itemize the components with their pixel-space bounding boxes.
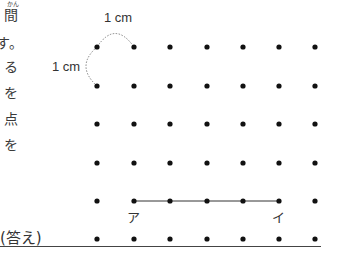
grid-dot	[94, 236, 99, 241]
grid-dot	[312, 236, 317, 241]
grid-dot	[94, 83, 99, 88]
grid-dot	[276, 160, 281, 165]
point-label-i: イ	[272, 207, 285, 226]
grid-dot	[204, 44, 209, 49]
horizontal-spacing-arc	[97, 34, 134, 48]
grid-dot	[131, 160, 136, 165]
grid-dot	[312, 121, 317, 126]
dot-grid-diagram	[0, 0, 339, 254]
answer-label: (答え)	[0, 226, 42, 247]
grid-dot	[131, 198, 136, 203]
grid-dot	[131, 236, 136, 241]
grid-dot	[276, 236, 281, 241]
horizontal-spacing-label: 1 cm	[104, 10, 132, 25]
grid-dot	[312, 44, 317, 49]
grid-dot	[94, 160, 99, 165]
grid-dot	[204, 160, 209, 165]
grid-dot	[204, 236, 209, 241]
grid-dot	[167, 44, 172, 49]
grid-dot	[276, 121, 281, 126]
grid-dot	[240, 236, 245, 241]
point-label-a: ア	[127, 207, 140, 226]
grid-dot	[167, 236, 172, 241]
grid-dot	[167, 198, 172, 203]
grid-dot	[312, 160, 317, 165]
grid-dot	[204, 83, 209, 88]
grid-dot	[204, 121, 209, 126]
vertical-spacing-arc	[86, 47, 97, 86]
grid-dot	[94, 44, 99, 49]
grid-dot	[131, 121, 136, 126]
grid-dot	[94, 198, 99, 203]
grid-dot	[312, 83, 317, 88]
grid-dot	[167, 83, 172, 88]
grid-dot	[240, 198, 245, 203]
grid-dot	[240, 160, 245, 165]
grid-dot	[131, 83, 136, 88]
grid-dot	[131, 44, 136, 49]
grid-dot	[94, 121, 99, 126]
grid-dot	[167, 160, 172, 165]
grid-dot	[240, 121, 245, 126]
grid-dot	[276, 44, 281, 49]
grid-dot	[240, 83, 245, 88]
grid-dot	[276, 83, 281, 88]
grid-dot	[312, 198, 317, 203]
vertical-spacing-label: 1 cm	[52, 59, 80, 74]
grid-dot	[276, 198, 281, 203]
grid-dot	[204, 198, 209, 203]
grid-dot	[167, 121, 172, 126]
grid-dot	[240, 44, 245, 49]
